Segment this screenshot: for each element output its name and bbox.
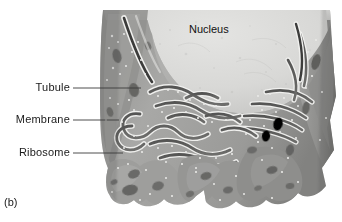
cell-body [98, 6, 340, 216]
label-tubule: Tubule [0, 82, 70, 93]
label-ribosome: Ribosome [0, 147, 70, 158]
label-membrane: Membrane [0, 114, 70, 125]
figure-caption: (b) [4, 196, 17, 208]
figure-container: Tubule Membrane Ribosome Nucleus (b) [0, 0, 342, 222]
rough-er-illustration [0, 0, 342, 222]
label-nucleus: Nucleus [189, 23, 229, 35]
